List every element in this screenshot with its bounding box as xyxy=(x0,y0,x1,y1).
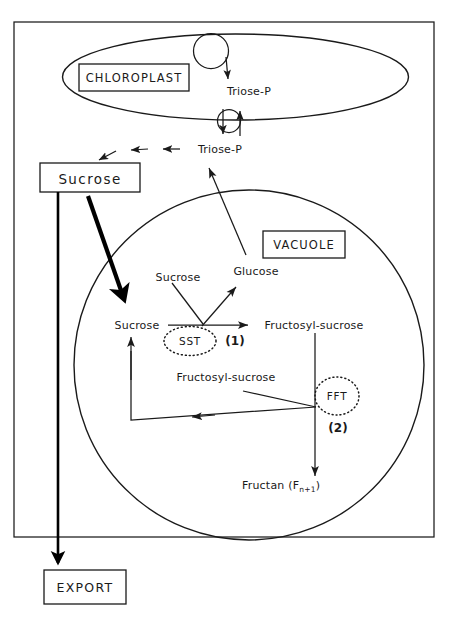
line-fructosylsucrose2-in xyxy=(243,391,316,407)
line-sucrose-substrate-in xyxy=(172,283,203,324)
vacuole-label: VACUOLE xyxy=(273,238,335,252)
chloroplast-label: CHLOROPLAST xyxy=(86,71,183,85)
path-sucrose-recycle xyxy=(131,351,316,420)
fructan-label-close: ) xyxy=(316,479,321,492)
glucose-label: Glucose xyxy=(233,265,278,278)
reaction-number-1: (1) xyxy=(225,334,244,348)
figure-canvas: CHLOROPLAST VACUOLE Sucrose EXPORT Trios… xyxy=(0,0,450,621)
fructan-label: Fructan (Fn+1) xyxy=(242,479,320,494)
fructan-label-main: Fructan (F xyxy=(242,479,299,492)
calvin-cycle-circle xyxy=(194,34,229,69)
reaction-number-2: (2) xyxy=(328,421,347,435)
arrow-triosep-step2 xyxy=(131,149,148,150)
fructan-label-subscript: n+1 xyxy=(299,485,315,494)
sucrose-vacuole-label: Sucrose xyxy=(115,319,160,332)
fructosyl-sucrose-2-label: Fructosyl-sucrose xyxy=(176,371,275,384)
fructosyl-sucrose-1-label: Fructosyl-sucrose xyxy=(264,319,363,332)
arrow-glucose-out xyxy=(202,287,236,326)
fft-enzyme-label: FFT xyxy=(327,390,348,402)
cell-boundary xyxy=(14,22,434,537)
export-label: EXPORT xyxy=(56,580,113,595)
arrow-vacuole-to-triosep xyxy=(209,168,246,255)
arrow-calvin-to-triosep xyxy=(226,57,228,79)
triose-p-stroma-label: Triose-P xyxy=(226,85,271,98)
triose-phosphate-translocator-icon xyxy=(218,110,241,133)
sucrose-cytosol-label: Sucrose xyxy=(58,171,121,187)
triose-p-cytosol-label: Triose-P xyxy=(197,143,242,156)
arrow-triosep-step3 xyxy=(99,151,116,160)
sst-enzyme-label: SST xyxy=(179,335,201,347)
cell-diagram: CHLOROPLAST VACUOLE Sucrose EXPORT Trios… xyxy=(0,0,450,621)
sucrose-substrate-label: Sucrose xyxy=(156,271,201,284)
